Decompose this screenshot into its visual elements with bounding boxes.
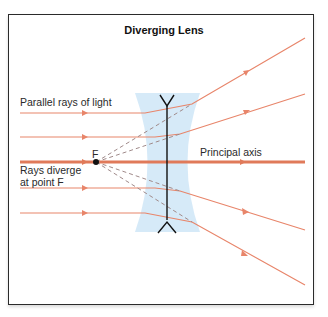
diverge-label-line2: at point F: [20, 176, 64, 188]
axis-arrow-icon: [82, 159, 88, 165]
arrow-icon: [82, 185, 88, 191]
arrow-icon: [82, 134, 88, 140]
axis-arrow-icon: [240, 159, 246, 165]
arrow-icon: [82, 210, 88, 216]
arrow-icon: [82, 110, 88, 116]
diverging-lens-diagram: [0, 0, 328, 317]
focal-point-label: F: [92, 148, 98, 160]
principal-axis-label: Principal axis: [200, 146, 262, 158]
parallel-rays-label: Parallel rays of light: [20, 96, 112, 108]
diverge-label-line1: Rays diverge: [20, 164, 81, 176]
arrow-icon: [242, 208, 249, 215]
diagram-title: Diverging Lens: [0, 24, 328, 36]
